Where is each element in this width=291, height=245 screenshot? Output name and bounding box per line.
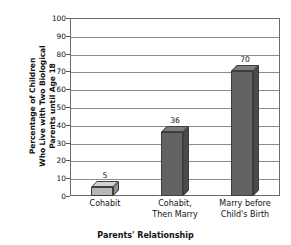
bar-side-face — [183, 126, 189, 196]
bar[interactable] — [231, 71, 253, 196]
y-axis-tick-label: 100 — [44, 14, 66, 23]
x-axis-tick-label-line: Marry before — [210, 199, 280, 210]
bar-side-face — [253, 65, 259, 196]
bar-group — [161, 18, 189, 196]
x-axis-title: Parents' Relationship — [0, 231, 291, 240]
x-axis-tick-label: Marry beforeChild's Birth — [210, 199, 280, 220]
y-axis-tick-mark — [66, 196, 70, 197]
y-axis-tick-label: 80 — [44, 49, 66, 58]
x-axis-tick-label-line: Cohabit — [70, 199, 140, 210]
x-axis-tick-label: Cohabit — [70, 199, 140, 210]
y-axis-tick-label: 30 — [44, 138, 66, 147]
bar-front-face — [231, 71, 253, 196]
bar[interactable] — [91, 187, 113, 196]
y-axis-tick-labels: 1009080706050403020100 — [42, 0, 66, 245]
x-axis-tick-label: Cohabit,Then Marry — [140, 199, 210, 220]
y-axis-tick-label: 90 — [44, 31, 66, 40]
bar-value-label: 36 — [155, 116, 195, 125]
x-axis-tick-label-line: Child's Birth — [210, 210, 280, 221]
bar-group — [231, 18, 259, 196]
y-axis-tick-label: 60 — [44, 85, 66, 94]
bar-chart-figure: Percentage of Children Who Live with Two… — [0, 0, 291, 245]
bar[interactable] — [161, 132, 183, 196]
bar-value-label: 5 — [85, 171, 125, 180]
bar-front-face — [91, 187, 113, 196]
bar-front-face — [161, 132, 183, 196]
y-axis-tick-label: 70 — [44, 67, 66, 76]
y-axis-tick-label: 20 — [44, 156, 66, 165]
bar-group — [91, 18, 119, 196]
x-axis-tick-labels: CohabitCohabit,Then MarryMarry beforeChi… — [70, 199, 280, 233]
bar-value-label: 70 — [225, 55, 265, 64]
y-axis-tick-label: 40 — [44, 120, 66, 129]
bar-series: 53670 — [70, 18, 280, 196]
y-axis-tick-label: 10 — [44, 174, 66, 183]
x-axis-tick-label-line: Then Marry — [140, 210, 210, 221]
y-axis-tick-label: 0 — [44, 192, 66, 201]
x-axis-tick-label-line: Cohabit, — [140, 199, 210, 210]
y-axis-tick-label: 50 — [44, 103, 66, 112]
